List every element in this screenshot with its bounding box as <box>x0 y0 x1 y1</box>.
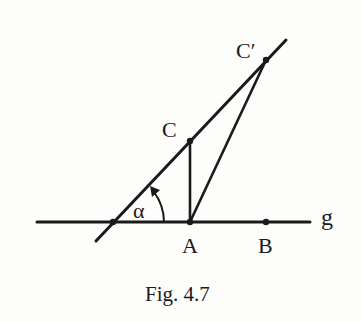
figure-canvas: C′ C α A B g Fig. 4.7 <box>0 0 362 322</box>
angle-arc-alpha <box>154 192 164 222</box>
point-intersection <box>110 219 116 225</box>
label-a: A <box>182 233 198 258</box>
label-alpha: α <box>133 198 145 223</box>
point-a <box>187 219 193 225</box>
figure-caption: Fig. 4.7 <box>145 282 210 306</box>
point-c <box>187 138 193 144</box>
label-b: B <box>258 233 273 258</box>
label-c-prime: C′ <box>236 38 256 63</box>
segment-ac-prime <box>190 60 266 222</box>
label-g: g <box>321 204 333 230</box>
point-b <box>263 219 269 225</box>
point-c-prime <box>263 57 269 63</box>
geometry-diagram: C′ C α A B g Fig. 4.7 <box>0 0 362 322</box>
angle-arrowhead-icon <box>150 186 160 197</box>
label-c: C <box>162 117 177 142</box>
